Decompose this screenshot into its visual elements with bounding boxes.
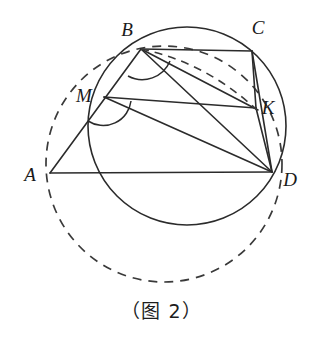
point-label-D: D [282,169,297,190]
segment-AD [50,172,272,173]
segment-BD [141,49,272,172]
point-label-K: K [261,97,276,118]
point-label-M: M [75,85,93,106]
point-label-B: B [121,19,133,40]
dashed-circle [46,46,282,282]
point-label-C: C [252,17,265,38]
figure-caption: （图 2） [0,296,323,323]
angle-arc-at-B [128,61,170,80]
point-label-A: A [22,164,36,185]
solid-circle [88,27,286,225]
segment-BC [141,49,252,51]
